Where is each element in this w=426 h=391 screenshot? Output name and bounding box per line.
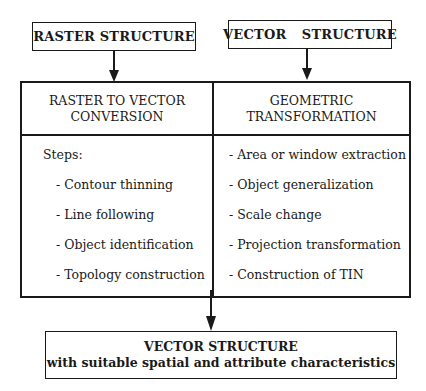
output-subtitle: with suitable spatial and attribute char… — [47, 355, 395, 371]
list-item: - Line following — [22, 200, 212, 230]
vector-output-box: VECTOR STRUCTURE with suitable spatial a… — [45, 331, 397, 379]
raster-structure-label: RASTER STRUCTURE — [33, 29, 195, 44]
list-item: - Topology construction — [22, 260, 212, 290]
steps-label: Steps: — [22, 140, 212, 170]
list-item: - Construction of TIN — [214, 260, 409, 290]
output-title: VECTOR STRUCTURE — [144, 339, 298, 355]
process-table: RASTER TO VECTOR CONVERSION Steps: - Con… — [20, 81, 411, 298]
vector-structure-label: VECTOR STRUCTURE — [223, 27, 397, 42]
list-item: - Scale change — [214, 200, 409, 230]
geometric-transformation-column: GEOMETRIC TRANSFORMATION - Area or windo… — [212, 83, 409, 296]
raster-to-vector-column: RASTER TO VECTOR CONVERSION Steps: - Con… — [22, 83, 212, 296]
arrow-vector-to-table — [302, 49, 312, 80]
vector-structure-box: VECTOR STRUCTURE — [228, 20, 392, 49]
arrow-raster-to-table — [109, 51, 119, 82]
raster-to-vector-header: RASTER TO VECTOR CONVERSION — [22, 83, 212, 136]
header-line: CONVERSION — [49, 109, 185, 125]
list-item: - Object identification — [22, 230, 212, 260]
header-line: TRANSFORMATION — [246, 109, 376, 125]
list-item: - Object generalization — [214, 170, 409, 200]
geometric-transformation-header: GEOMETRIC TRANSFORMATION — [214, 83, 409, 136]
list-item: - Area or window extraction — [214, 140, 409, 170]
header-line: GEOMETRIC — [246, 93, 376, 109]
raster-structure-box: RASTER STRUCTURE — [32, 22, 196, 51]
list-item: - Projection transformation — [214, 230, 409, 260]
list-item: - Contour thinning — [22, 170, 212, 200]
header-line: RASTER TO VECTOR — [49, 93, 185, 109]
